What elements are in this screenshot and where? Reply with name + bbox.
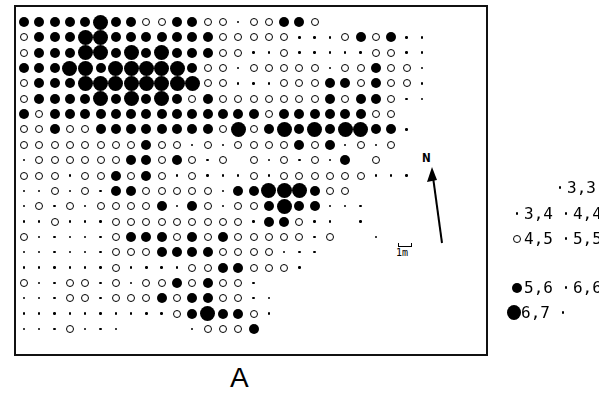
filled-circle-icon	[356, 32, 366, 42]
grid-cell	[200, 75, 216, 91]
filled-circle-icon	[187, 309, 197, 319]
grid-cell	[138, 152, 154, 168]
grid-cell	[16, 91, 32, 107]
grid-cell	[16, 75, 32, 91]
grid-cell	[368, 229, 384, 245]
filled-circle-icon	[80, 94, 90, 104]
open-circle-icon	[204, 264, 212, 272]
grid-cell	[62, 121, 78, 137]
grid-cell	[123, 198, 139, 214]
small-dot-icon	[23, 266, 25, 268]
small-dot-icon	[99, 190, 101, 192]
grid-cell	[215, 214, 231, 230]
grid-cell	[276, 168, 292, 184]
grid-cell	[93, 321, 109, 337]
grid-cell	[276, 137, 292, 153]
grid-cell	[261, 137, 277, 153]
grid-cell	[276, 198, 292, 214]
filled-circle-icon	[126, 186, 136, 196]
small-dot-icon	[145, 312, 147, 314]
grid-cell	[169, 275, 185, 291]
grid-cell	[337, 137, 353, 153]
filled-circle-icon	[172, 17, 182, 27]
open-circle-icon	[250, 156, 258, 164]
small-dot-icon	[559, 286, 573, 288]
large-filled-circle-icon	[78, 30, 93, 45]
grid-cell	[154, 229, 170, 245]
large-filled-circle-icon	[277, 199, 292, 214]
small-dot-icon	[329, 51, 331, 53]
grid-cell	[93, 214, 109, 230]
open-circle-icon	[295, 79, 303, 87]
small-dot-icon	[298, 266, 300, 268]
small-dot-icon	[298, 36, 300, 38]
grid-cell	[230, 91, 246, 107]
small-dot-icon	[38, 282, 40, 284]
filled-circle-icon	[50, 94, 60, 104]
filled-circle-icon	[157, 232, 167, 242]
grid-cell	[261, 290, 277, 306]
grid-cell	[261, 168, 277, 184]
open-circle-icon	[341, 187, 349, 195]
grid-cell	[291, 229, 307, 245]
grid-cell	[62, 198, 78, 214]
filled-circle-icon	[141, 109, 151, 119]
grid-cell	[230, 29, 246, 45]
small-dot-icon	[176, 174, 178, 176]
grid-cell	[307, 137, 323, 153]
open-circle-icon	[158, 18, 166, 26]
open-circle-icon	[35, 110, 43, 118]
grid-cell	[307, 168, 323, 184]
grid-cell	[93, 60, 109, 76]
grid-cell	[31, 306, 47, 322]
open-circle-icon	[20, 279, 28, 287]
grid-cell	[16, 244, 32, 260]
open-circle-icon	[35, 172, 43, 180]
grid-cell	[200, 321, 216, 337]
open-circle-icon	[20, 33, 28, 41]
large-filled-circle-icon	[154, 61, 169, 76]
open-circle-icon	[158, 187, 166, 195]
grid-cell	[31, 275, 47, 291]
grid-cell	[47, 260, 63, 276]
filled-circle-icon	[203, 247, 213, 257]
filled-circle-icon	[264, 201, 274, 211]
filled-circle-icon	[294, 140, 304, 150]
legend-label: 3,4	[524, 204, 553, 223]
filled-circle-icon	[203, 94, 213, 104]
grid-cell	[77, 290, 93, 306]
open-circle-icon	[51, 218, 59, 226]
filled-circle-icon	[65, 78, 75, 88]
grid-cell	[123, 106, 139, 122]
grid-cell	[383, 106, 399, 122]
grid-cell	[47, 121, 63, 137]
grid-cell	[215, 14, 231, 30]
dot-grid-map	[0, 0, 599, 394]
grid-cell	[93, 45, 109, 61]
large-filled-circle-icon	[154, 45, 169, 60]
grid-cell	[184, 321, 200, 337]
grid-cell	[200, 14, 216, 30]
open-circle-icon	[97, 172, 105, 180]
small-dot-icon	[115, 328, 117, 330]
grid-cell	[154, 168, 170, 184]
open-circle-icon	[142, 279, 150, 287]
grid-cell	[47, 214, 63, 230]
large-filled-circle-icon	[124, 76, 139, 91]
filled-circle-icon	[203, 293, 213, 303]
grid-cell	[16, 198, 32, 214]
grid-cell	[322, 60, 338, 76]
grid-cell	[47, 152, 63, 168]
filled-circle-icon	[172, 155, 182, 165]
small-dot-icon	[69, 236, 71, 238]
filled-circle-icon	[141, 32, 151, 42]
grid-cell	[291, 45, 307, 61]
open-circle-icon	[173, 294, 181, 302]
grid-cell	[276, 29, 292, 45]
open-circle-icon	[66, 294, 74, 302]
open-circle-icon	[403, 64, 411, 72]
filled-circle-icon	[126, 232, 136, 242]
open-circle-icon	[234, 218, 242, 226]
grid-cell	[322, 183, 338, 199]
open-circle-icon	[112, 218, 120, 226]
